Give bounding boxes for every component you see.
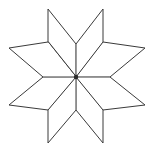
eight-pointed-star-figure — [0, 0, 161, 151]
figure-canvas — [0, 0, 161, 151]
star-center-dot — [74, 75, 78, 79]
